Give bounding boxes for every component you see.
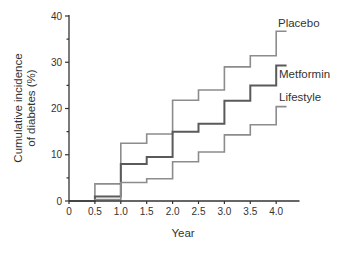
y-axis-title: Cumulative incidence of diabetes (%) [12, 53, 37, 162]
plot-series [69, 31, 287, 201]
x-tick-label: 2.0 [166, 206, 180, 217]
y-tick-label: 10 [51, 149, 63, 160]
x-tick-label: 0.5 [88, 206, 102, 217]
x-tick-label: 1.0 [114, 206, 128, 217]
x-tick-label: 3.0 [217, 206, 231, 217]
y-tick-label: 40 [51, 11, 63, 22]
series-labels: PlaceboMetforminLifestyle [278, 17, 330, 103]
x-tick-label: 4.0 [269, 206, 283, 217]
x-tick-label: 1.5 [140, 206, 154, 217]
series-metformin [69, 65, 287, 201]
y-axis-title-line-2: of diabetes (%) [25, 69, 37, 147]
axes: 01020304000.51.01.52.02.53.03.54.0 [51, 11, 300, 218]
y-axis-title-line-1: Cumulative incidence [12, 53, 24, 162]
series-lifestyle [69, 107, 287, 201]
y-tick-label: 20 [51, 103, 63, 114]
label-metformin: Metformin [279, 68, 330, 80]
x-tick-label: 2.5 [192, 206, 206, 217]
label-lifestyle: Lifestyle [279, 91, 321, 103]
y-tick-label: 30 [51, 57, 63, 68]
label-placebo: Placebo [278, 17, 320, 29]
chart: 01020304000.51.01.52.02.53.03.54.0 Place… [0, 0, 342, 253]
x-tick-label: 3.5 [243, 206, 257, 217]
x-tick-label: 0 [66, 206, 72, 217]
series-placebo [69, 31, 287, 201]
x-axis-title: Year [171, 227, 194, 239]
y-tick-label: 0 [56, 196, 62, 207]
